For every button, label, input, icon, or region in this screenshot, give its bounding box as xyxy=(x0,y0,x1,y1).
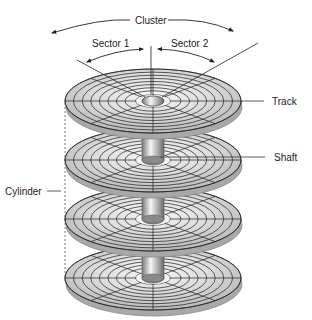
cluster-arc-right xyxy=(168,20,233,31)
sector2-arc xyxy=(158,49,214,62)
cluster-label: Cluster xyxy=(135,15,167,26)
platter-stack xyxy=(65,69,242,316)
cylinder-label: Cylinder xyxy=(5,186,42,197)
platter-1 xyxy=(65,69,242,139)
cluster-arc xyxy=(52,20,130,33)
spindle-hole xyxy=(142,96,164,106)
hard-disk-diagram: Cylinder Track Shaft Cluster Sector 1 Se… xyxy=(0,0,312,320)
sector2-label: Sector 2 xyxy=(171,38,209,49)
shaft-label: Shaft xyxy=(274,152,298,163)
sector1-label: Sector 1 xyxy=(92,38,130,49)
track-label: Track xyxy=(272,96,298,107)
sector1-arc xyxy=(87,49,143,62)
